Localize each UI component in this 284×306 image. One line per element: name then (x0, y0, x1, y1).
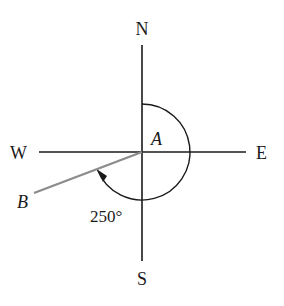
label-south: S (137, 269, 147, 289)
ray-b (34, 152, 142, 193)
label-north: N (136, 19, 149, 39)
label-west: W (10, 143, 27, 163)
compass-diagram: N S E W A B 250° (0, 0, 284, 306)
label-east: E (256, 143, 267, 163)
compass-svg: N S E W A B 250° (0, 0, 284, 306)
arrowhead-icon (98, 170, 107, 182)
label-b: B (17, 192, 28, 212)
label-a: A (150, 129, 163, 149)
angle-label: 250° (90, 207, 122, 226)
